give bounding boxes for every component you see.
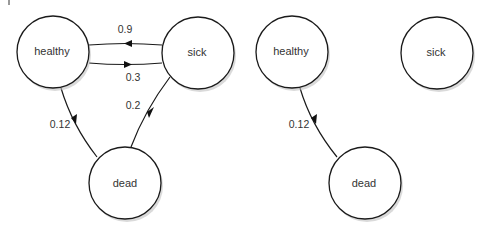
node-dead[interactable]: dead — [89, 147, 163, 222]
edge-label-0.3: 0.3 — [126, 71, 141, 83]
edge-healthy-to-sick: 0.3 — [89, 61, 162, 83]
edge-healthy-to-dead: 0.12 — [289, 88, 337, 157]
node-label: healthy — [273, 45, 309, 57]
node-label: dead — [113, 177, 137, 189]
node-label: sick — [427, 46, 446, 58]
node-healthy[interactable]: healthy — [17, 16, 91, 91]
node-label: healthy — [34, 45, 70, 57]
edge-healthy-to-dead: 0.12 — [50, 88, 97, 157]
edge-sick-to-dead: 0.2 — [126, 77, 170, 147]
node-label: sick — [188, 46, 207, 58]
edge-label-0.12: 0.12 — [289, 118, 310, 130]
arrow-right-icon — [124, 61, 132, 68]
arrow-down-icon — [147, 107, 154, 118]
node-sick[interactable]: sick — [401, 17, 475, 92]
edge-label-0.12: 0.12 — [50, 118, 71, 130]
node-label: dead — [352, 177, 376, 189]
edge-label-0.2: 0.2 — [126, 99, 141, 111]
arrow-left-icon — [124, 40, 132, 47]
diagram-right: 0.12 healthy sick dead — [256, 16, 475, 222]
diagram-left: 0.9 0.3 0.2 0.12 healthy sick — [17, 16, 236, 222]
node-healthy[interactable]: healthy — [256, 16, 330, 91]
diagram-canvas: 0.9 0.3 0.2 0.12 healthy sick — [0, 0, 493, 233]
edge-label-0.9: 0.9 — [118, 23, 133, 35]
edge-sick-to-healthy: 0.9 — [89, 23, 162, 47]
node-sick[interactable]: sick — [162, 17, 236, 92]
node-dead[interactable]: dead — [329, 147, 403, 222]
